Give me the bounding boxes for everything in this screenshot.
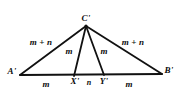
vertex-label-x-prime: X' bbox=[71, 77, 80, 86]
length-label-left-side: m + n bbox=[30, 38, 53, 47]
length-label-left-cevian: m bbox=[65, 47, 72, 56]
vertex-label-a-prime: A' bbox=[8, 67, 17, 76]
length-label-base-middle: n bbox=[87, 79, 92, 87]
length-label-right-cevian: m bbox=[100, 47, 107, 56]
geometry-figure: A' C' B' X' Y' m + n m + n m m m n m bbox=[0, 0, 177, 106]
length-label-base-left: m bbox=[42, 80, 49, 89]
length-label-base-right: m bbox=[125, 80, 132, 89]
apex-node bbox=[84, 24, 87, 27]
vertex-label-b-prime: B' bbox=[165, 66, 174, 75]
length-label-right-side: m + n bbox=[122, 38, 145, 47]
segment-right-side bbox=[86, 26, 162, 74]
segment-base bbox=[20, 74, 162, 75]
vertex-label-y-prime: Y' bbox=[100, 77, 108, 86]
vertex-label-c-prime: C' bbox=[82, 14, 91, 23]
